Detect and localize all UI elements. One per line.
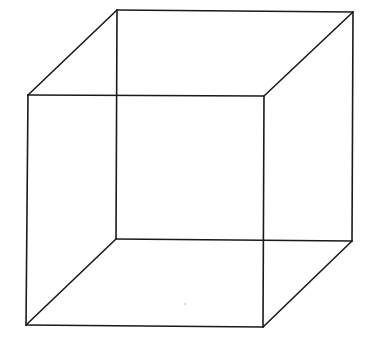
paper-specks (184, 303, 185, 304)
necker-cube-diagram (0, 0, 371, 346)
cube-edge-back-bottom-left-to-back-top-left (116, 10, 117, 239)
cube-edge-front-top-right-to-front-bottom-right (263, 96, 264, 327)
speck (184, 303, 185, 304)
background (0, 0, 371, 346)
cube-edge-front-top-left-to-front-top-right (28, 95, 264, 96)
cube-edge-back-top-right-to-back-bottom-right (352, 12, 353, 241)
